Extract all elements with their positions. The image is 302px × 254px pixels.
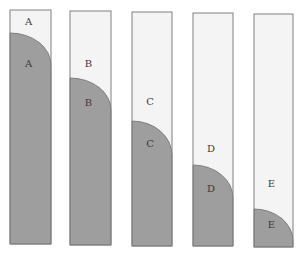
column-d: DD — [193, 13, 233, 246]
upper-label: A — [24, 16, 33, 27]
lower-label: D — [207, 183, 215, 194]
lower-label: B — [85, 97, 92, 108]
upper-label: D — [207, 143, 215, 154]
upper-label: E — [268, 178, 275, 189]
columns-diagram: AABBCCDDEE — [0, 0, 302, 254]
diagram-stage: AABBCCDDEE — [0, 0, 302, 254]
column-e: EE — [254, 14, 293, 247]
column-a: AA — [10, 10, 51, 244]
lower-label: A — [24, 58, 33, 69]
lower-label: E — [268, 219, 275, 230]
lower-label: C — [146, 138, 154, 149]
column-c: CC — [132, 12, 172, 246]
upper-label: B — [85, 58, 92, 69]
upper-label: C — [146, 96, 154, 107]
column-b: BB — [70, 11, 111, 245]
